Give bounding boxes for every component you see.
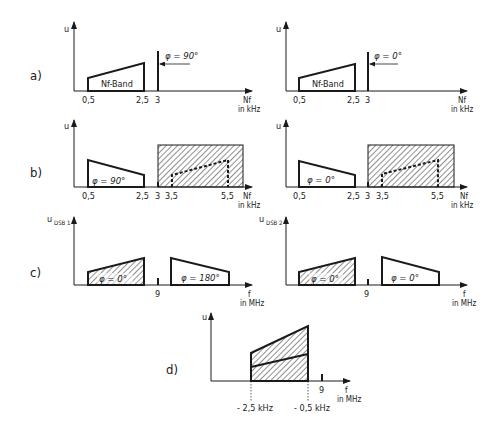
band-phase-label: φ = 0°: [307, 174, 335, 185]
carrier-phase-label: φ = 0°: [374, 50, 402, 61]
tick-0-5: 0,5: [293, 191, 306, 201]
y-axis-label: u: [276, 24, 281, 34]
y-axis-label: u: [276, 121, 281, 131]
x-axis-label: f: [345, 386, 348, 395]
y-axis-subscript: DSB 2: [266, 219, 282, 226]
x-axis-label: f: [248, 290, 251, 299]
tick-0-5: 0,5: [82, 95, 95, 105]
lsb-phase-label: φ = 0°: [311, 273, 339, 284]
tick-5-5: 5,5: [221, 191, 234, 201]
x-axis-label: Nf: [243, 96, 251, 105]
panel-label-a: a): [30, 68, 42, 83]
band-label: Nf-Band: [101, 79, 133, 89]
panel-b-left-chart: u φ = 90° 0,5 2,5 3 3,5 5,5 Nf in kHz: [64, 120, 260, 210]
tick-2-5: 2,5: [136, 95, 149, 105]
panel-d: d) u 9 f in MHz - 2,5 kHz - 0,5 kHz: [166, 312, 361, 413]
x-axis-label: Nf: [460, 192, 468, 201]
y-axis-subscript: DSB 1: [54, 219, 70, 226]
tick-3-5: 3,5: [165, 191, 178, 201]
filtered-region: [368, 145, 454, 187]
panel-c: c) u DSB 1 φ = 0° φ = 180° 9 f in MHz u …: [30, 214, 476, 308]
usb-phase-label: φ = 0°: [391, 272, 419, 283]
marker-label-2-5-khz: - 2,5 kHz: [237, 403, 273, 413]
x-axis-unit: in MHz: [240, 299, 264, 308]
ssb-spectrum-diagram: a) u Nf-Band φ = 90° 0,5 2,5 3 Nf in kHz…: [0, 0, 489, 426]
marker-label-0-5-khz: - 0,5 kHz: [294, 403, 330, 413]
panel-label-d: d): [166, 362, 178, 377]
tick-3: 3: [155, 95, 160, 105]
filtered-region: [158, 145, 243, 187]
band-label: Nf-Band: [312, 79, 344, 89]
tick-9: 9: [155, 289, 160, 299]
tick-3: 3: [155, 191, 160, 201]
panel-label-c: c): [30, 265, 41, 280]
tick-2-5: 2,5: [347, 95, 360, 105]
tick-3: 3: [365, 95, 370, 105]
x-axis-label: Nf: [458, 96, 466, 105]
y-axis-label: u: [202, 312, 207, 322]
tick-3-5: 3,5: [376, 191, 389, 201]
tick-9: 9: [364, 289, 369, 299]
tick-0-5: 0,5: [293, 95, 306, 105]
panel-a: a) u Nf-Band φ = 90° 0,5 2,5 3 Nf in kHz…: [30, 22, 473, 114]
tick-0-5: 0,5: [82, 191, 95, 201]
tick-3: 3: [365, 191, 370, 201]
x-axis-unit: in kHz: [238, 201, 260, 210]
x-axis-label: Nf: [243, 192, 251, 201]
panel-d-chart: u 9 f in MHz - 2,5 kHz - 0,5 kHz: [202, 312, 361, 413]
x-axis-unit: in kHz: [451, 105, 473, 114]
panel-c-left-chart: u DSB 1 φ = 0° φ = 180° 9 f in MHz: [47, 214, 264, 308]
panel-b: b) u φ = 90° 0,5 2,5 3 3,5 5,5 Nf in kHz…: [30, 120, 473, 210]
x-axis-unit: in MHz: [337, 395, 361, 404]
y-axis-label: u: [64, 24, 69, 34]
tick-9: 9: [319, 385, 324, 395]
usb-phase-label: φ = 180°: [181, 272, 220, 283]
carrier-phase-label: φ = 90°: [165, 50, 198, 61]
summed-ssb-band: [251, 326, 308, 381]
panel-c-right-chart: u DSB 2 φ = 0° φ = 0° 9 f in MHz: [259, 214, 476, 308]
band-phase-label: φ = 90°: [92, 175, 125, 186]
panel-a-left-chart: u Nf-Band φ = 90° 0,5 2,5 3 Nf in kHz: [64, 22, 260, 114]
tick-2-5: 2,5: [136, 191, 149, 201]
panel-label-b: b): [30, 165, 42, 180]
x-axis-unit: in MHz: [452, 299, 476, 308]
y-axis-label: u: [64, 121, 69, 131]
panel-a-right-chart: u Nf-Band φ = 0° 0,5 2,5 3 Nf in kHz: [276, 22, 473, 114]
lsb-phase-label: φ = 0°: [99, 273, 127, 284]
y-axis-label: u: [259, 214, 264, 224]
x-axis-unit: in kHz: [238, 105, 260, 114]
tick-5-5: 5,5: [431, 191, 444, 201]
tick-2-5: 2,5: [347, 191, 360, 201]
x-axis-unit: in kHz: [451, 201, 473, 210]
y-axis-label: u: [47, 214, 52, 224]
x-axis-label: f: [463, 290, 466, 299]
panel-b-right-chart: u φ = 0° 0,5 2,5 3 3,5 5,5 Nf in kHz: [276, 120, 473, 210]
